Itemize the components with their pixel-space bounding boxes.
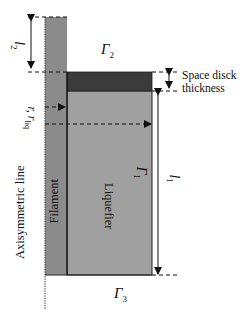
space-disk-region: [67, 72, 152, 91]
gamma3-label: Γ3: [114, 286, 127, 304]
r-rliq-label: r, rliq: [23, 106, 38, 128]
l2-label: l2: [9, 41, 26, 49]
liquefier-label: Liquefier: [102, 183, 115, 230]
diagram-canvas: l2 Γ2 Space disck thickness r, rliq Fila…: [0, 0, 246, 323]
gamma2-label: Γ2: [101, 42, 114, 60]
axisymmetric-line-label: Axisymmetric line: [14, 166, 27, 259]
filament-label: Filament: [48, 179, 61, 223]
gamma1-label: Γ1: [132, 166, 149, 178]
l1-label: l1: [165, 174, 182, 182]
filament-region: [45, 17, 67, 275]
space-disk-thickness-label: Space disck thickness: [182, 69, 237, 95]
diagram-graphics: [0, 0, 246, 323]
